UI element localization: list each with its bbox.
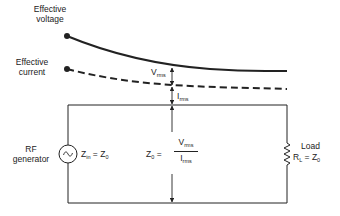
i-rms-subscript: rms — [179, 96, 188, 102]
diagram-canvas — [0, 0, 340, 216]
load-z0-subscript: 0 — [317, 157, 320, 163]
load-equals: = Z — [302, 152, 317, 162]
z0-numerator: Vrms — [179, 137, 194, 150]
rf-generator-line1: RF — [5, 144, 57, 154]
effective-current-label: Effective current — [2, 57, 62, 77]
z0-equals: = — [154, 149, 161, 159]
numerator-subscript: rms — [184, 142, 193, 148]
z-in-equation: Zin = Z0 — [81, 149, 108, 162]
load-title: Load — [301, 141, 320, 151]
z-in-equals: = Z — [90, 149, 105, 159]
resistor-icon — [284, 143, 290, 165]
voltage-curve — [64, 33, 287, 71]
current-curve — [64, 66, 287, 89]
i-rms-label: Irms — [177, 91, 189, 104]
fraction-bar — [174, 151, 198, 152]
v-rms-subscript: rms — [157, 72, 166, 78]
effective-current-line2: current — [2, 67, 62, 77]
effective-current-line1: Effective — [2, 57, 62, 67]
z-in-z0-subscript: 0 — [105, 154, 108, 160]
effective-voltage-line1: Effective — [18, 4, 82, 14]
load-equation: RL = Z0 — [293, 152, 320, 165]
z0-denominator: Irms — [180, 153, 192, 166]
rf-generator-line2: generator — [5, 154, 57, 164]
effective-voltage-label: Effective voltage — [18, 4, 82, 24]
effective-voltage-line2: voltage — [18, 14, 82, 24]
denominator-subscript: rms — [183, 158, 192, 164]
z0-formula-lhs: Z0 = — [146, 149, 162, 162]
z0-fraction: Vrms Irms — [174, 137, 198, 166]
rf-generator-label: RF generator — [5, 144, 57, 164]
v-rms-label: Vrms — [151, 67, 166, 80]
ac-source-icon — [59, 145, 77, 163]
